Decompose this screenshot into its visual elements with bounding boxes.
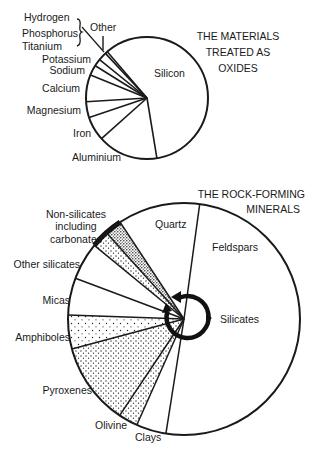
label-quartz: Quartz <box>155 218 187 230</box>
label-aluminium: Aluminium <box>72 151 121 163</box>
label-potassium: Potassium <box>42 53 91 65</box>
label-nonsilicates-line-2: including <box>55 220 97 232</box>
oxides-pie: Silicon Aluminium Iron Magnesium Calcium… <box>22 11 279 163</box>
label-titanium: Titanium <box>22 40 62 52</box>
label-magnesium: Magnesium <box>27 104 82 116</box>
label-pyroxenes: Pyroxenes <box>42 384 92 396</box>
label-nonsilicates-line-3: carbonates <box>50 233 102 245</box>
oxides-title-line-1: THE MATERIALS <box>197 30 280 42</box>
minerals-pie: Quartz Feldspars Silicates Non-silicates… <box>13 188 305 443</box>
label-calcium: Calcium <box>42 82 80 94</box>
label-other: Other <box>90 21 117 33</box>
label-hydrogen: Hydrogen <box>24 11 70 23</box>
label-olivine: Olivine <box>95 419 127 431</box>
label-other-silicates: Other silicates <box>13 258 80 270</box>
label-clays: Clays <box>135 431 161 443</box>
minerals-title-line-2: MINERALS <box>246 203 300 215</box>
label-sodium: Sodium <box>49 64 85 76</box>
label-silicates: Silicates <box>220 313 259 325</box>
figure: Silicon Aluminium Iron Magnesium Calcium… <box>0 0 320 464</box>
minerals-title-line-1: THE ROCK-FORMING <box>198 188 305 200</box>
label-silicon: Silicon <box>154 67 185 79</box>
oxides-title-line-2: TREATED AS <box>206 46 271 58</box>
label-phosphorus: Phosphorus <box>22 27 78 39</box>
label-amphiboles: Amphiboles <box>15 331 70 343</box>
label-feldspars: Feldspars <box>212 241 258 253</box>
label-micas: Micas <box>43 294 70 306</box>
label-nonsilicates-line-1: Non-silicates <box>46 208 106 220</box>
label-iron: Iron <box>73 127 91 139</box>
oxides-title-line-3: OXIDES <box>218 62 258 74</box>
